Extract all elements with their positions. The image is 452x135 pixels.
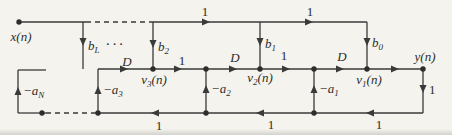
gain-one-label: 1 bbox=[202, 5, 209, 18]
arrow-left-icon bbox=[256, 110, 264, 117]
arrow-down-icon bbox=[364, 38, 371, 46]
graph-arrowheads bbox=[15, 19, 427, 117]
delay-label: D bbox=[122, 55, 131, 68]
coeff-label-a3: −a3 bbox=[103, 83, 123, 99]
arrow-down-icon bbox=[150, 40, 157, 48]
node-label-v2: v2(n) bbox=[247, 71, 272, 87]
arrow-left-icon bbox=[151, 110, 159, 117]
node-dot bbox=[39, 110, 44, 115]
arrow-right-icon bbox=[282, 66, 290, 73]
arrow-up-icon bbox=[203, 85, 210, 93]
node-label-v1: v1(n) bbox=[356, 73, 381, 89]
node-dot-v3 bbox=[150, 66, 155, 71]
flow-graph-canvas bbox=[0, 0, 452, 135]
coeff-label-aN: −aN bbox=[23, 84, 44, 100]
ellipsis-label: ··· bbox=[106, 39, 126, 50]
coeff-label-b1: b1 bbox=[265, 37, 276, 53]
node-dot bbox=[311, 110, 316, 115]
graph-nodes bbox=[16, 19, 425, 115]
gain-one-label: 1 bbox=[179, 54, 186, 67]
arrow-left-icon bbox=[366, 110, 374, 117]
arrow-right-icon bbox=[336, 66, 344, 73]
output-label: y(n) bbox=[415, 50, 436, 63]
arrow-right-icon bbox=[202, 19, 210, 26]
gain-one-label: 1 bbox=[281, 49, 288, 62]
node-dot bbox=[203, 110, 208, 115]
delay-label: D bbox=[230, 51, 239, 64]
arrow-down-icon bbox=[257, 38, 264, 46]
node-dot bbox=[203, 66, 208, 71]
arrow-up-icon bbox=[15, 87, 22, 95]
arrow-right-icon bbox=[305, 19, 313, 26]
coeff-label-b2: b2 bbox=[158, 40, 169, 56]
arrow-up-icon bbox=[95, 86, 102, 94]
input-label: x(n) bbox=[11, 30, 32, 43]
arrow-down-icon bbox=[80, 38, 87, 46]
page-edge-shadow bbox=[0, 129, 452, 135]
node-dot bbox=[95, 110, 100, 115]
coeff-label-a2: −a2 bbox=[211, 82, 231, 98]
coeff-label-b0: b0 bbox=[372, 36, 383, 52]
arrow-down-icon bbox=[420, 85, 427, 93]
coeff-label-a1: −a1 bbox=[319, 82, 339, 98]
delay-label: D bbox=[337, 50, 346, 63]
gain-one-label: 1 bbox=[429, 83, 436, 96]
filter-structure-diagram: x(n) y(n) bL b2 b1 b0 ··· −aN −a3 −a2 −a… bbox=[0, 0, 452, 135]
node-dot-v1 bbox=[364, 66, 369, 71]
node-dot-output bbox=[420, 66, 425, 71]
arrow-right-icon bbox=[391, 66, 399, 73]
arrow-right-icon bbox=[229, 66, 237, 73]
node-label-v3: v3(n) bbox=[141, 73, 166, 89]
node-dot-input bbox=[16, 19, 21, 24]
node-dot bbox=[311, 66, 316, 71]
arrow-up-icon bbox=[311, 85, 318, 93]
gain-one-label: 1 bbox=[307, 5, 314, 18]
graph-edges bbox=[18, 22, 423, 113]
coeff-label-bL: bL bbox=[88, 39, 100, 55]
